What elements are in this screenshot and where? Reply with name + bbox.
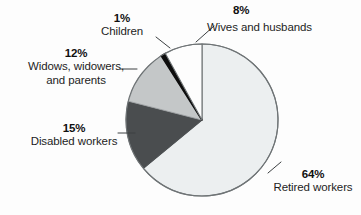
callout-wives-and-husbands-percent: 8% bbox=[233, 4, 312, 17]
callout-children: 1% Children bbox=[86, 12, 158, 39]
pie-chart-figure: 8% Wives and husbands 1% Children 12% Wi… bbox=[0, 0, 361, 215]
callout-disabled-workers-percent: 15% bbox=[6, 122, 142, 135]
callout-wives-and-husbands-name: Wives and husbands bbox=[207, 21, 312, 33]
callout-retired-workers-percent: 64% bbox=[268, 168, 358, 181]
callout-widows-widowers-parents: 12% Widows, widowers, and parents bbox=[6, 47, 146, 87]
callout-widows-widowers-parents-name-line2: and parents bbox=[6, 74, 146, 87]
callout-retired-workers-name: Retired workers bbox=[268, 181, 358, 194]
callout-children-name: Children bbox=[86, 25, 158, 38]
callout-retired-workers: 64% Retired workers bbox=[268, 168, 358, 195]
callout-widows-widowers-parents-percent: 12% bbox=[6, 47, 146, 60]
callout-disabled-workers-name: Disabled workers bbox=[6, 135, 142, 148]
pie-slices bbox=[126, 44, 278, 196]
callout-disabled-workers: 15% Disabled workers bbox=[6, 122, 142, 149]
callout-widows-widowers-parents-name-line1: Widows, widowers, bbox=[6, 60, 146, 73]
callout-children-percent: 1% bbox=[86, 12, 158, 25]
leader-line-children bbox=[156, 37, 170, 48]
callout-wives-and-husbands: 8% Wives and husbands bbox=[207, 4, 312, 36]
